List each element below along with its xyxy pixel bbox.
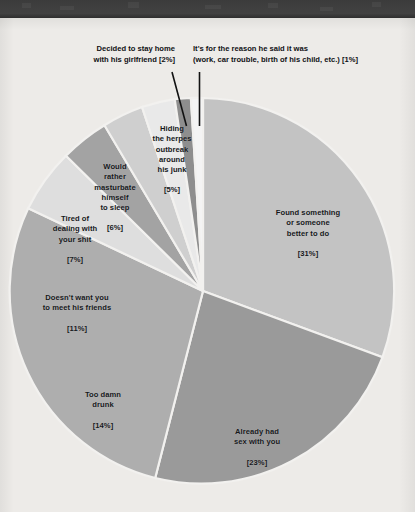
pie-chart: Decided to stay home with his girlfriend… [0, 0, 415, 512]
page-root: Decided to stay home with his girlfriend… [0, 0, 415, 512]
pie-label-too-damn-drunk-text: Too damn drunk [85, 390, 121, 409]
pie-label-meet-his-friends-text: Doesn't want you to meet his friends [43, 293, 111, 312]
pie-label-found-something-text: Found something or someone better to do [276, 208, 340, 237]
pie-label-already-had-sex: Already had sex with you [23%] [207, 417, 307, 468]
pie-label-reason-he-said: It's for the reason he said it was (work… [193, 44, 411, 65]
pie-label-tired-of-dealing-value: [7%] [67, 255, 83, 264]
pie-label-hiding-herpes: Hiding the herpes outbreak around his ju… [141, 114, 203, 196]
pie-label-too-damn-drunk-value: [14%] [93, 421, 114, 430]
pie-label-already-had-sex-value: [23%] [247, 458, 268, 467]
pie-label-would-rather-masturbate-text: Would rather masturbate himself to sleep [94, 162, 135, 212]
pie-label-hiding-herpes-text: Hiding the herpes outbreak around his ju… [153, 124, 192, 174]
pie-label-would-rather-masturbate-value: [6%] [107, 223, 123, 232]
pie-label-meet-his-friends: Doesn't want you to meet his friends [11… [20, 283, 134, 334]
pie-label-would-rather-masturbate: Would rather masturbate himself to sleep… [82, 152, 148, 234]
pie-label-already-had-sex-text: Already had sex with you [234, 427, 280, 446]
pie-label-stay-home-girlfriend: Decided to stay home with his girlfriend… [63, 44, 175, 65]
pie-label-found-something: Found something or someone better to do … [259, 198, 357, 259]
pie-label-too-damn-drunk: Too damn drunk [14%] [59, 380, 147, 431]
pie-label-meet-his-friends-value: [11%] [67, 324, 87, 333]
pie-label-hiding-herpes-value: [5%] [164, 185, 180, 194]
pie-label-found-something-value: [31%] [298, 249, 319, 258]
